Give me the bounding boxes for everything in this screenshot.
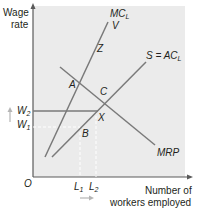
supply-acl-label: S = ACL [146,50,182,62]
point-b-label: B [82,128,89,139]
point-x-label: X [97,112,105,123]
x-axis-label-line2: workers employed [109,197,191,208]
w2-label: W2 [17,105,30,117]
mrp-label: MRP [157,147,180,158]
point-a-label: A [68,79,76,90]
employment-increase-arrowhead-icon [89,196,94,201]
x-axis-label-line1: Number of [145,185,192,196]
point-c-label: C [100,86,108,97]
point-z-label: Z [96,43,104,54]
wage-increase-arrowhead-icon [8,107,13,112]
l2-label: L2 [89,181,99,193]
monopsony-diagram: Wage rate Number of workers employed O M… [0,0,199,209]
y-axis-label-line1: Wage [3,7,29,18]
l1-label: L1 [74,181,84,193]
y-axis-label-line2: rate [11,19,29,30]
origin-label: O [24,178,32,189]
w1-label: W1 [17,119,30,131]
x-axis-arrow-icon [187,175,193,180]
